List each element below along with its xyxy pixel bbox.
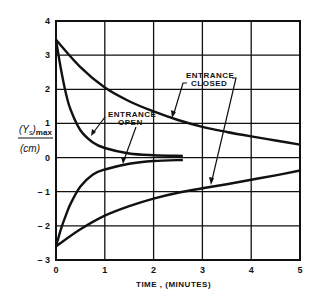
grid-lines xyxy=(56,21,300,260)
y-axis-ticks: 43210– 1– 2– 3 xyxy=(37,16,50,265)
svg-text:OPEN: OPEN xyxy=(118,118,143,127)
y-tick-label: 3 xyxy=(45,50,50,60)
series-line xyxy=(56,40,183,156)
y-tick-label: 1 xyxy=(45,118,50,128)
x-tick-label: 0 xyxy=(53,265,58,275)
y-tick-label: – 3 xyxy=(37,255,50,265)
svg-text:(cm): (cm) xyxy=(20,143,40,154)
x-axis-label: TIME , (MINUTES) xyxy=(136,280,211,289)
y-axis-label: (Ys)max (cm) xyxy=(18,124,53,154)
x-tick-label: 1 xyxy=(102,265,107,275)
data-curves xyxy=(56,40,300,247)
x-tick-label: 3 xyxy=(200,265,205,275)
x-tick-label: 4 xyxy=(249,265,254,275)
y-tick-label: – 2 xyxy=(37,221,50,231)
y-tick-label: – 1 xyxy=(37,187,50,197)
svg-text:CLOSED: CLOSED xyxy=(191,79,227,88)
y-tick-label: 0 xyxy=(45,153,50,163)
x-axis-ticks: 012345 xyxy=(53,265,302,275)
x-tick-label: 2 xyxy=(151,265,156,275)
series-line xyxy=(56,171,300,247)
x-tick-label: 5 xyxy=(297,265,302,275)
y-tick-label: 4 xyxy=(45,16,50,26)
chart: 012345 43210– 1– 2– 3 TIME , (MINUTES) (… xyxy=(0,0,317,300)
y-tick-label: 2 xyxy=(45,84,50,94)
plot-frame xyxy=(56,21,300,260)
